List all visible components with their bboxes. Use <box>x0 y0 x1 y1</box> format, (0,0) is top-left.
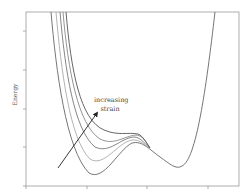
energy-curve <box>60 12 150 149</box>
annotation-increasing: increasing <box>94 96 126 104</box>
y-ticks <box>23 31 26 186</box>
curves <box>51 12 215 175</box>
y-axis-label: Energy <box>11 86 18 106</box>
energy-curve <box>66 12 150 148</box>
annotation-strain: strain <box>94 105 126 113</box>
plot-frame <box>26 12 239 186</box>
x-ticks <box>26 186 208 189</box>
